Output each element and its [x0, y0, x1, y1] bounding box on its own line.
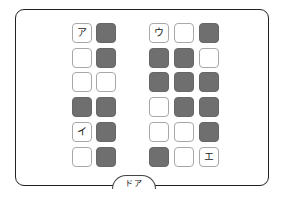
seat-left-r2-c1 [72, 48, 92, 68]
seat-left-r6-c2 [96, 147, 116, 167]
seat-right-r2-c2 [174, 48, 194, 68]
seat-right-r6-c2 [174, 147, 194, 167]
seat-left-r1-c2 [96, 23, 116, 43]
seat-right-r1-c3 [199, 23, 219, 43]
seat-left-r5-c1: イ [72, 122, 92, 142]
seat-right-r1-c2 [174, 23, 194, 43]
seat-left-r5-c2 [96, 122, 116, 142]
door-label: ドア [112, 175, 156, 189]
seat-right-r4-c2 [174, 97, 194, 117]
seat-left-r3-c2 [96, 72, 116, 92]
seat-right-r5-c3 [199, 122, 219, 142]
seat-right-r3-c1 [149, 72, 169, 92]
seat-left-r1-c1: ア [72, 23, 92, 43]
seat-left-r2-c2 [96, 48, 116, 68]
room-frame [15, 9, 269, 186]
seat-right-r6-c1 [149, 147, 169, 167]
seat-right-r1-c1: ウ [149, 23, 169, 43]
seat-right-r3-c2 [174, 72, 194, 92]
seat-right-r4-c1 [149, 97, 169, 117]
seat-right-r4-c3 [199, 97, 219, 117]
seat-right-r5-c2 [174, 122, 194, 142]
seat-right-r6-c3: エ [199, 147, 219, 167]
seat-left-r4-c1 [72, 97, 92, 117]
seat-left-r4-c2 [96, 97, 116, 117]
seat-left-r6-c1 [72, 147, 92, 167]
seat-right-r3-c3 [199, 72, 219, 92]
seat-left-r3-c1 [72, 72, 92, 92]
seat-right-r2-c3 [199, 48, 219, 68]
seat-right-r5-c1 [149, 122, 169, 142]
seat-right-r2-c1 [149, 48, 169, 68]
